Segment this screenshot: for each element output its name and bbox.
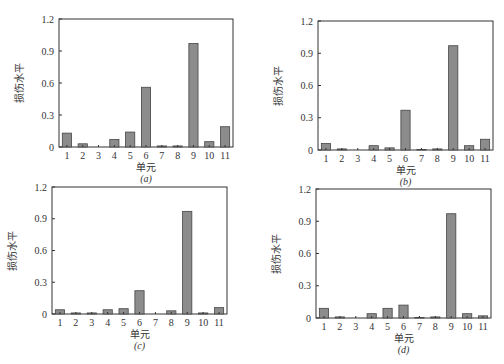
x-tick-label: 3 bbox=[353, 321, 358, 332]
y-tick-label: 0.9 bbox=[299, 216, 312, 227]
x-tick-label: 7 bbox=[417, 321, 422, 332]
y-tick-label: 0.6 bbox=[299, 248, 312, 259]
x-axis-label: 单元 bbox=[394, 333, 414, 344]
x-tick-label: 10 bbox=[462, 321, 472, 332]
panel-caption: (d) bbox=[398, 344, 410, 356]
x-tick-label: 2 bbox=[337, 321, 342, 332]
x-tick-label: 5 bbox=[385, 321, 390, 332]
x-tick-label: 6 bbox=[401, 321, 406, 332]
bar bbox=[447, 214, 456, 318]
bar-chart: 00.30.60.91.21234567891011单元(d)损伤水平 bbox=[0, 0, 504, 364]
x-tick-label: 4 bbox=[369, 321, 374, 332]
y-axis-label: 损伤水平 bbox=[270, 234, 282, 274]
x-tick-label: 8 bbox=[433, 321, 438, 332]
plot-frame bbox=[316, 189, 491, 318]
y-tick-label: 0 bbox=[306, 313, 311, 324]
x-tick-label: 11 bbox=[478, 321, 488, 332]
y-tick-label: 0.3 bbox=[299, 280, 312, 291]
y-tick-label: 1.2 bbox=[299, 184, 312, 195]
x-tick-label: 9 bbox=[449, 321, 454, 332]
x-tick-label: 1 bbox=[321, 321, 326, 332]
